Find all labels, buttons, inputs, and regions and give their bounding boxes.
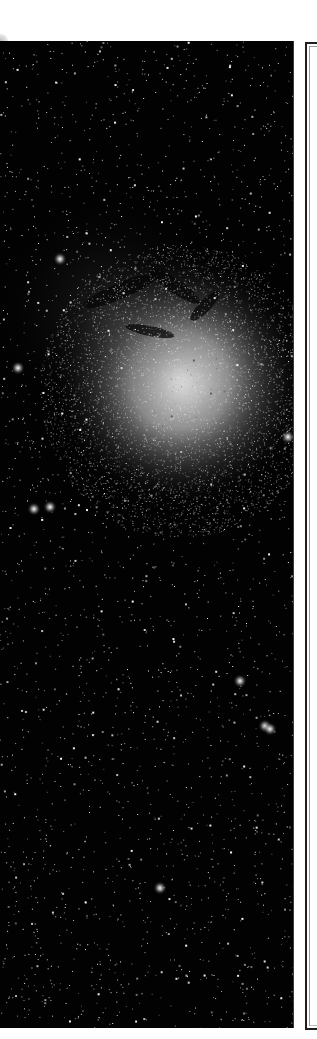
nebula-starfield-photo xyxy=(0,41,294,1028)
side-panel-frame xyxy=(305,42,317,1030)
side-panel-inner-border xyxy=(309,46,317,1026)
starfield-canvas xyxy=(0,41,293,1028)
